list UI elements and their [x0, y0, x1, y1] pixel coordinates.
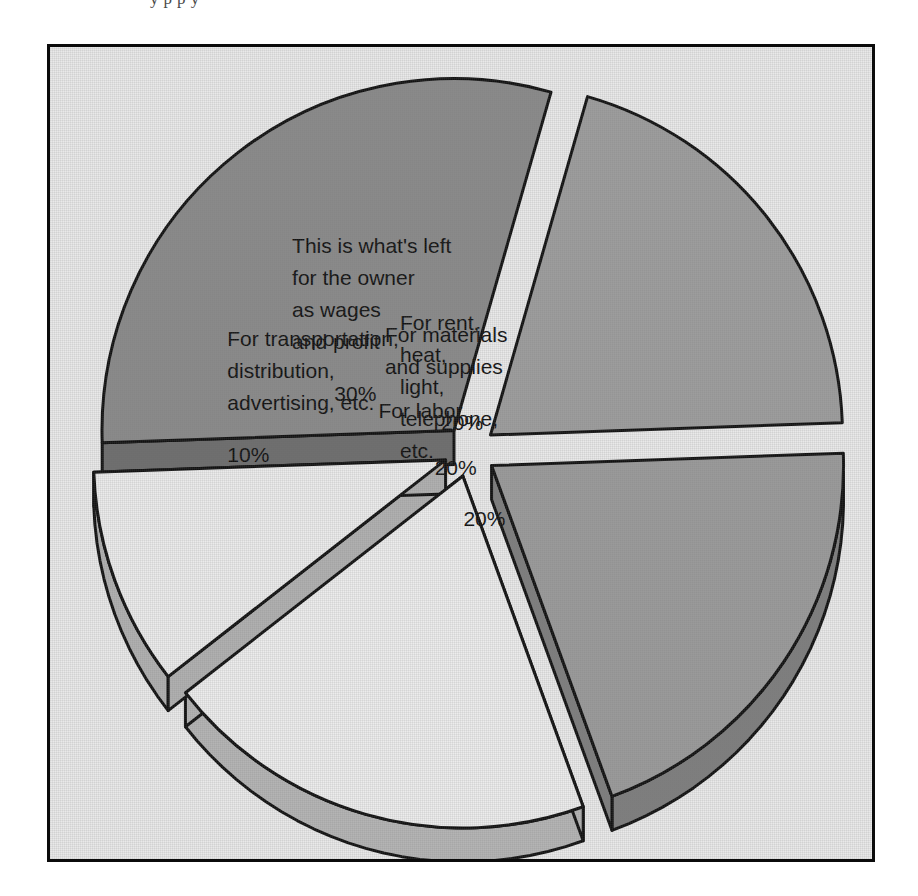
pie-chart: This is what's left for the owner as wag…	[50, 47, 872, 859]
slice-label-owner-line-1: for the owner	[292, 266, 415, 289]
slice-label-rent-line-1: heat,	[400, 343, 447, 366]
figure-frame: This is what's left for the owner as wag…	[47, 44, 875, 862]
slice-label-rent-line-0: For rent,	[400, 311, 479, 334]
slice-label-rent-line-4: etc.	[400, 439, 434, 462]
slice-percent-transportation: 10%	[227, 443, 269, 466]
slice-top-owner	[102, 79, 551, 443]
slice-label-owner-line-0: This is what's left	[292, 234, 451, 257]
slice-label-transportation-line-2: advertising, etc.	[227, 391, 374, 414]
slice-percent-rent: 20%	[463, 507, 505, 530]
slice-label-transportation-line-1: distribution,	[227, 359, 334, 382]
slice-label-transportation-line-0: For transportation,	[227, 327, 399, 350]
slice-top-materials	[490, 97, 842, 435]
slice-label-labor-line-0: For labor	[378, 399, 462, 422]
slice-percent-labor: 20%	[435, 456, 477, 479]
slice-label-rent-line-2: light,	[400, 375, 444, 398]
slice-label-owner-line-2: as wages	[292, 298, 381, 321]
scanned-page-text-sliver: y p p y	[0, 0, 918, 8]
